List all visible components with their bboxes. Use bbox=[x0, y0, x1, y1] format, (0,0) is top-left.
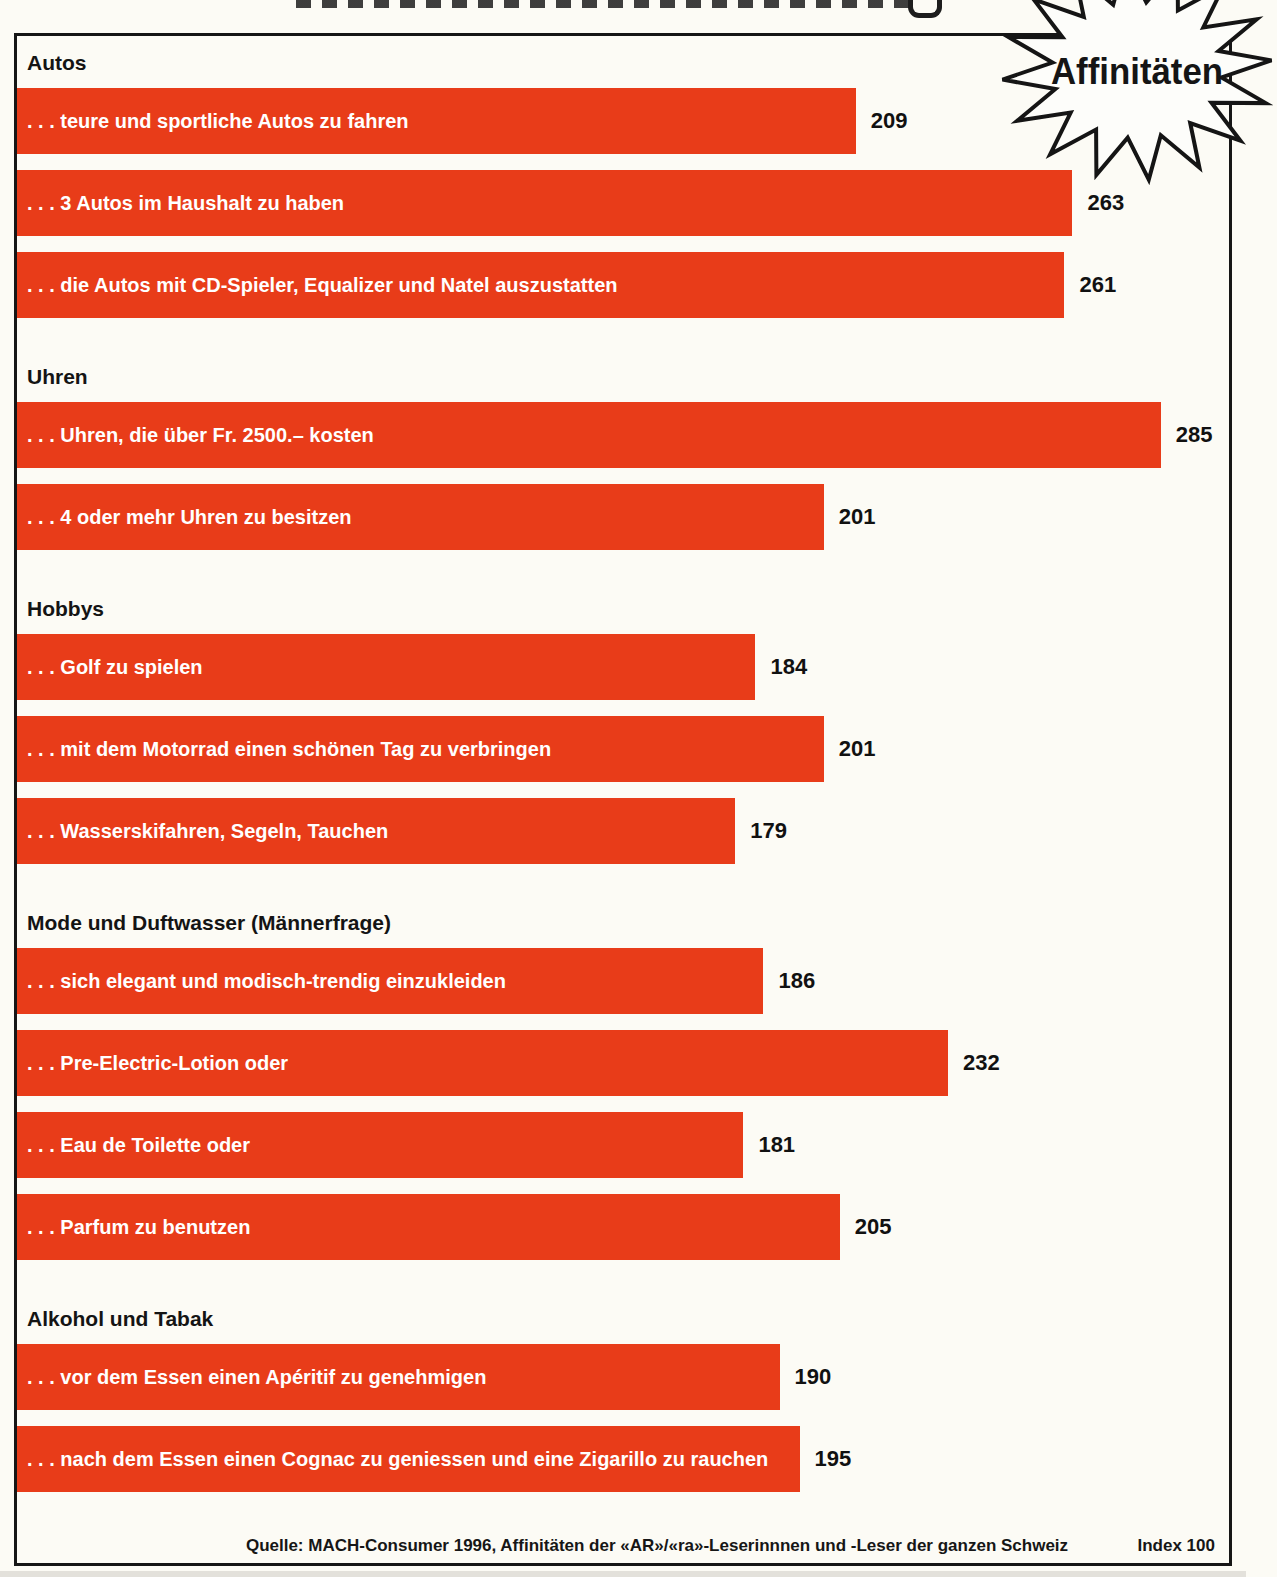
bar-label: . . . die Autos mit CD-Spieler, Equalize… bbox=[17, 274, 617, 297]
bar-label: . . . Wasserskifahren, Segeln, Tauchen bbox=[17, 820, 388, 843]
badge-label: Affinitäten bbox=[1051, 51, 1223, 92]
bar-value: 179 bbox=[750, 818, 787, 844]
cropped-title-fragment bbox=[296, 0, 916, 8]
bar-value: 195 bbox=[815, 1446, 852, 1472]
bar-label: . . . mit dem Motorrad einen schönen Tag… bbox=[17, 738, 551, 761]
bar-label: . . . Golf zu spielen bbox=[17, 656, 203, 679]
bar-value: 184 bbox=[770, 654, 807, 680]
bar-value: 186 bbox=[778, 968, 815, 994]
bar-row: . . . sich elegant und modisch-trendig e… bbox=[17, 948, 1229, 1014]
chart-body: Autos . . . teure und sportliche Autos z… bbox=[17, 36, 1229, 1563]
scan-edge-shadow bbox=[0, 1571, 1246, 1577]
bar-value: 232 bbox=[963, 1050, 1000, 1076]
bar-label: . . . Eau de Toilette oder bbox=[17, 1134, 250, 1157]
bar-label: . . . sich elegant und modisch-trendig e… bbox=[17, 970, 506, 993]
bar: . . . nach dem Essen einen Cognac zu gen… bbox=[17, 1426, 800, 1492]
bar: . . . vor dem Essen einen Apéritif zu ge… bbox=[17, 1344, 780, 1410]
bar-value: 285 bbox=[1176, 422, 1213, 448]
bar-row: . . . Pre-Electric-Lotion oder 232 bbox=[17, 1030, 1229, 1096]
bar: . . . sich elegant und modisch-trendig e… bbox=[17, 948, 763, 1014]
section-title-hobbys: Hobbys bbox=[27, 594, 1229, 624]
bar-label: . . . vor dem Essen einen Apéritif zu ge… bbox=[17, 1366, 486, 1389]
bar-row: . . . Wasserskifahren, Segeln, Tauchen 1… bbox=[17, 798, 1229, 864]
bar-row: . . . Golf zu spielen 184 bbox=[17, 634, 1229, 700]
bar-label: . . . nach dem Essen einen Cognac zu gen… bbox=[17, 1448, 768, 1471]
bar-row: . . . die Autos mit CD-Spieler, Equalize… bbox=[17, 252, 1229, 318]
bar: . . . Parfum zu benutzen bbox=[17, 1194, 840, 1260]
bar-value: 205 bbox=[855, 1214, 892, 1240]
bar: . . . Uhren, die über Fr. 2500.– kosten bbox=[17, 402, 1161, 468]
bar-row: . . . Parfum zu benutzen 205 bbox=[17, 1194, 1229, 1260]
bar: . . . teure und sportliche Autos zu fahr… bbox=[17, 88, 856, 154]
bar-row: . . . vor dem Essen einen Apéritif zu ge… bbox=[17, 1344, 1229, 1410]
bar-row: . . . Eau de Toilette oder 181 bbox=[17, 1112, 1229, 1178]
bar-row: . . . mit dem Motorrad einen schönen Tag… bbox=[17, 716, 1229, 782]
bar: . . . mit dem Motorrad einen schönen Tag… bbox=[17, 716, 824, 782]
bar-row: . . . Uhren, die über Fr. 2500.– kosten … bbox=[17, 402, 1229, 468]
chart-frame: Autos . . . teure und sportliche Autos z… bbox=[14, 33, 1232, 1566]
bar-value: 181 bbox=[758, 1132, 795, 1158]
bar-value: 201 bbox=[839, 504, 876, 530]
bar: . . . 3 Autos im Haushalt zu haben bbox=[17, 170, 1072, 236]
bar: . . . Eau de Toilette oder bbox=[17, 1112, 743, 1178]
bar-label: . . . 4 oder mehr Uhren zu besitzen bbox=[17, 506, 352, 529]
bar: . . . Pre-Electric-Lotion oder bbox=[17, 1030, 948, 1096]
bar-row: . . . 4 oder mehr Uhren zu besitzen 201 bbox=[17, 484, 1229, 550]
source-note: Quelle: MACH-Consumer 1996, Affinitäten … bbox=[246, 1536, 1068, 1555]
bar-label: . . . Parfum zu benutzen bbox=[17, 1216, 250, 1239]
index-baseline-note: Index 100 bbox=[1138, 1536, 1216, 1556]
bar-label: . . . teure und sportliche Autos zu fahr… bbox=[17, 110, 409, 133]
bar: . . . Wasserskifahren, Segeln, Tauchen bbox=[17, 798, 735, 864]
bar-value: 201 bbox=[839, 736, 876, 762]
bar-label: . . . Pre-Electric-Lotion oder bbox=[17, 1052, 288, 1075]
bar-row: . . . nach dem Essen einen Cognac zu gen… bbox=[17, 1426, 1229, 1492]
bar-value: 261 bbox=[1079, 272, 1116, 298]
bar: . . . die Autos mit CD-Spieler, Equalize… bbox=[17, 252, 1064, 318]
section-title-uhren: Uhren bbox=[27, 362, 1229, 392]
bar-label: . . . 3 Autos im Haushalt zu haben bbox=[17, 192, 344, 215]
bar: . . . Golf zu spielen bbox=[17, 634, 755, 700]
section-title-alkohol: Alkohol und Tabak bbox=[27, 1304, 1229, 1334]
bar-value: 209 bbox=[871, 108, 908, 134]
bar-value: 263 bbox=[1087, 190, 1124, 216]
bar-label: . . . Uhren, die über Fr. 2500.– kosten bbox=[17, 424, 374, 447]
cropped-title-descender bbox=[908, 0, 942, 18]
section-title-mode: Mode und Duftwasser (Männerfrage) bbox=[27, 908, 1229, 938]
bar: . . . 4 oder mehr Uhren zu besitzen bbox=[17, 484, 824, 550]
affinity-starburst-badge: Affinitäten bbox=[992, 0, 1277, 190]
chart-footer: Quelle: MACH-Consumer 1996, Affinitäten … bbox=[17, 1536, 1229, 1556]
bar-value: 190 bbox=[795, 1364, 832, 1390]
